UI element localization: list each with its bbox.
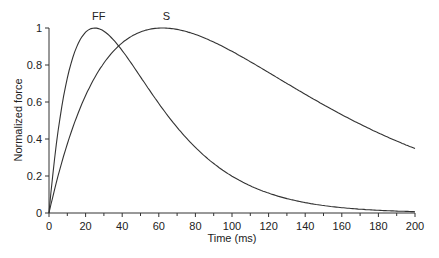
y-axis-label: Normalized force	[12, 78, 24, 161]
y-tick-label: 0.8	[27, 59, 42, 71]
x-tick-label: 200	[406, 220, 424, 232]
y-tick-label: 0.2	[27, 170, 42, 182]
y-tick-label: 1	[36, 22, 42, 34]
x-ticks: 020406080100120140160180200	[46, 213, 424, 232]
x-tick-label: 100	[223, 220, 241, 232]
y-ticks: 00.20.40.60.81	[27, 22, 49, 219]
series-label-ff: FF	[92, 10, 106, 22]
x-tick-label: 140	[296, 220, 314, 232]
y-tick-label: 0	[36, 207, 42, 219]
twitch-force-chart: 020406080100120140160180200 00.20.40.60.…	[0, 0, 439, 258]
x-tick-label: 40	[116, 220, 128, 232]
curve-ff	[49, 28, 415, 213]
y-tick-label: 0.6	[27, 96, 42, 108]
curves	[49, 28, 415, 213]
y-tick-label: 0.4	[27, 133, 42, 145]
x-tick-label: 60	[153, 220, 165, 232]
x-axis-label: Time (ms)	[207, 232, 256, 244]
x-tick-label: 180	[369, 220, 387, 232]
series-label-s: S	[163, 10, 170, 22]
axes	[49, 28, 415, 213]
curve-s	[49, 28, 415, 213]
x-tick-label: 80	[189, 220, 201, 232]
x-tick-label: 120	[259, 220, 277, 232]
x-tick-label: 0	[46, 220, 52, 232]
x-tick-label: 20	[79, 220, 91, 232]
x-tick-label: 160	[333, 220, 351, 232]
